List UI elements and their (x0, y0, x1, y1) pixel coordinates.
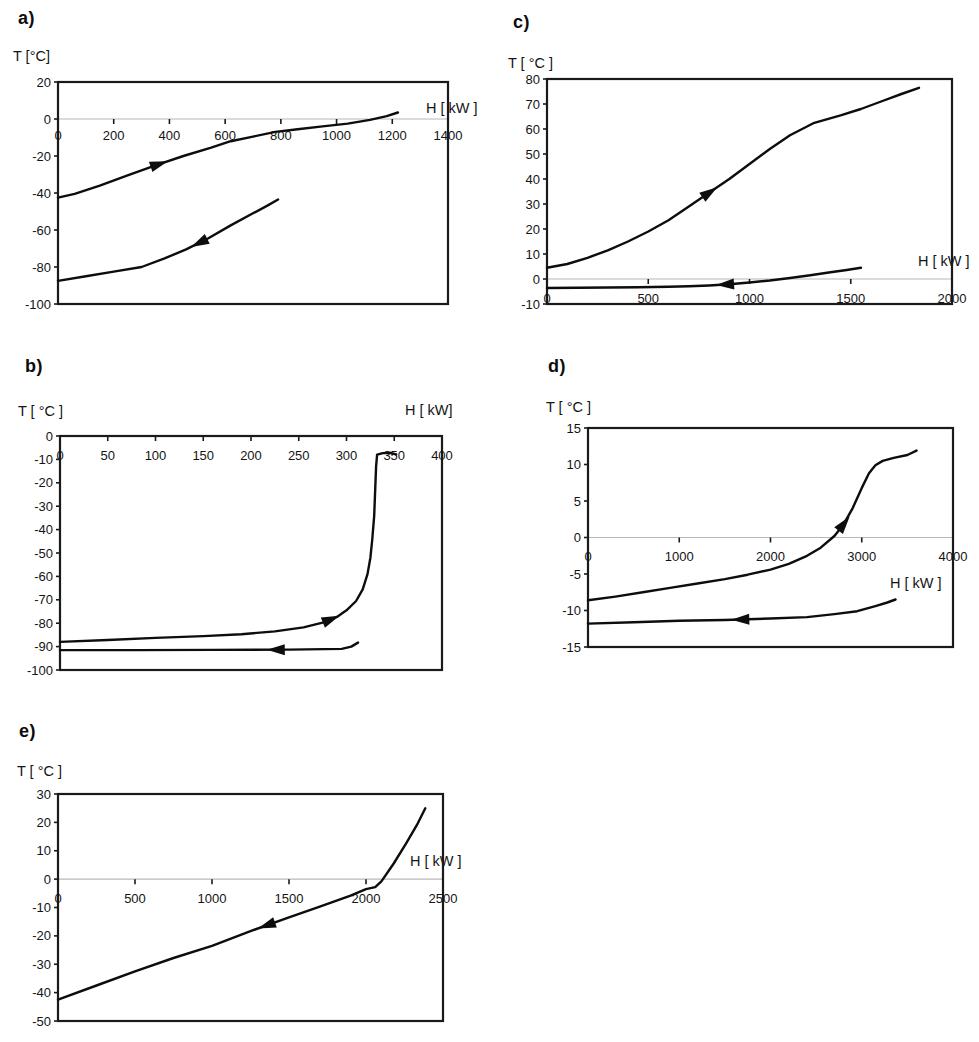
y-tick-label: 40 (526, 172, 540, 187)
y-tick-label: -100 (25, 297, 51, 312)
y-tick-label: 15 (567, 421, 581, 436)
x-tick-label: 1000 (735, 291, 764, 306)
chart-panel-a: 0200400600800100012001400200-20-40-60-80… (25, 75, 462, 312)
y-tick-label: 50 (526, 147, 540, 162)
y-tick-label: -15 (562, 640, 581, 655)
x-tick-label: 300 (336, 448, 358, 463)
y-tick-label: 0 (46, 429, 53, 444)
y-tick-label: 70 (526, 97, 540, 112)
x-tick-label: 200 (240, 448, 262, 463)
y-tick-label: -80 (34, 616, 53, 631)
y-tick-label: -60 (34, 569, 53, 584)
y-tick-label: -50 (32, 1014, 51, 1029)
y-tick-label: 30 (526, 197, 540, 212)
y-tick-label: -10 (32, 900, 51, 915)
x-tick-label: 0 (56, 448, 63, 463)
figure-charts-canvas: 0200400600800100012001400200-20-40-60-80… (0, 0, 979, 1042)
x-tick-label: 0 (584, 549, 591, 564)
y-tick-label: -20 (34, 475, 53, 490)
x-tick-label: 3000 (847, 549, 876, 564)
backward-direction-arrow-icon (731, 614, 749, 625)
chart-panel-d: 01000200030004000151050-5-10-15 (562, 421, 967, 655)
y-tick-label: 0 (533, 272, 540, 287)
y-tick-label: 0 (44, 872, 51, 887)
x-axis-ticks: 05001000150020002500 (54, 879, 457, 905)
x-tick-label: 0 (54, 128, 61, 143)
x-tick-label: 400 (431, 448, 453, 463)
y-tick-label: -10 (562, 603, 581, 618)
y-tick-label: -90 (34, 639, 53, 654)
y-tick-label: -40 (32, 985, 51, 1000)
y-tick-label: -10 (34, 452, 53, 467)
cooled-stream-curve (547, 268, 861, 288)
chart-panel-e: 050010001500200025003020100-10-20-30-40-… (32, 787, 457, 1029)
y-axis-ticks: 151050-5-10-15 (562, 421, 588, 655)
chart-panel-c: 050010001500200080706050403020100-10 (521, 72, 966, 312)
y-tick-label: 30 (37, 787, 51, 802)
x-tick-label: 100 (145, 448, 167, 463)
y-axis-ticks: 200-20-40-60-80-100 (25, 75, 58, 312)
x-tick-label: 200 (103, 128, 125, 143)
x-axis-ticks: 050100150200250300350400 (56, 436, 452, 463)
x-axis-ticks: 01000200030004000 (584, 538, 967, 564)
cooled-stream-curve (58, 200, 278, 281)
x-tick-label: 1400 (434, 128, 463, 143)
y-tick-label: 0 (44, 112, 51, 127)
plot-border (60, 436, 442, 670)
backward-direction-arrow-icon (191, 234, 210, 247)
y-tick-label: 20 (37, 815, 51, 830)
x-tick-label: 1000 (665, 549, 694, 564)
y-axis-ticks: 80706050403020100-10 (521, 72, 547, 312)
plot-border (547, 79, 952, 304)
x-tick-label: 1200 (378, 128, 407, 143)
y-tick-label: -60 (32, 223, 51, 238)
y-tick-label: -50 (34, 546, 53, 561)
plot-border (58, 794, 443, 1021)
x-tick-label: 2000 (938, 291, 967, 306)
backward-direction-arrow-icon (267, 644, 285, 655)
y-tick-label: 80 (526, 72, 540, 87)
heated-stream-curve (60, 453, 396, 642)
forward-direction-arrow-icon (699, 187, 717, 202)
x-tick-label: 4000 (939, 549, 968, 564)
x-tick-label: 500 (124, 891, 146, 906)
y-tick-label: 60 (526, 122, 540, 137)
x-tick-label: 500 (637, 291, 659, 306)
x-tick-label: 1000 (198, 891, 227, 906)
y-tick-label: -20 (32, 149, 51, 164)
x-tick-label: 400 (159, 128, 181, 143)
y-tick-label: -20 (32, 928, 51, 943)
y-tick-label: -80 (32, 260, 51, 275)
forward-direction-arrow-icon (149, 161, 168, 172)
x-tick-label: 2500 (429, 891, 458, 906)
y-tick-label: 5 (574, 494, 581, 509)
backward-direction-arrow-icon (258, 917, 277, 928)
y-tick-label: -5 (569, 567, 581, 582)
heated-stream-curve (547, 88, 919, 268)
y-tick-label: -30 (32, 957, 51, 972)
x-axis-ticks: 0200400600800100012001400 (54, 119, 462, 143)
heated-stream-curve (588, 451, 917, 601)
x-tick-label: 1000 (322, 128, 351, 143)
forward-direction-arrow-icon (321, 616, 340, 628)
y-tick-label: 10 (526, 247, 540, 262)
chart-panel-b: 0501001502002503003504000-10-20-30-40-50… (27, 429, 453, 678)
x-tick-label: 1500 (836, 291, 865, 306)
y-tick-label: -10 (521, 297, 540, 312)
x-tick-label: 1500 (275, 891, 304, 906)
y-tick-label: -70 (34, 592, 53, 607)
y-tick-label: -40 (32, 186, 51, 201)
y-tick-label: 0 (574, 530, 581, 545)
y-tick-label: -40 (34, 522, 53, 537)
y-tick-label: -100 (27, 663, 53, 678)
x-tick-label: 0 (54, 891, 61, 906)
y-tick-label: 20 (37, 75, 51, 90)
y-tick-label: -30 (34, 499, 53, 514)
cooled-stream-curve (60, 643, 358, 651)
y-tick-label: 20 (526, 222, 540, 237)
heated-stream-curve (58, 113, 398, 198)
x-tick-label: 50 (101, 448, 115, 463)
x-tick-label: 2000 (756, 549, 785, 564)
x-tick-label: 250 (288, 448, 310, 463)
y-axis-ticks: 3020100-10-20-30-40-50 (32, 787, 58, 1029)
